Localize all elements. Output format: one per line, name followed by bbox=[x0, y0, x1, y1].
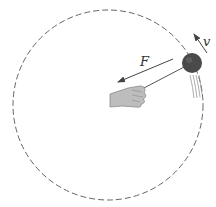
ball bbox=[182, 53, 202, 73]
circular-motion-diagram bbox=[0, 0, 216, 207]
motion-lines bbox=[190, 75, 202, 98]
hand-icon bbox=[110, 86, 146, 107]
force-label: F bbox=[140, 55, 149, 68]
velocity-label: v bbox=[203, 35, 210, 48]
circular-path bbox=[13, 10, 203, 200]
